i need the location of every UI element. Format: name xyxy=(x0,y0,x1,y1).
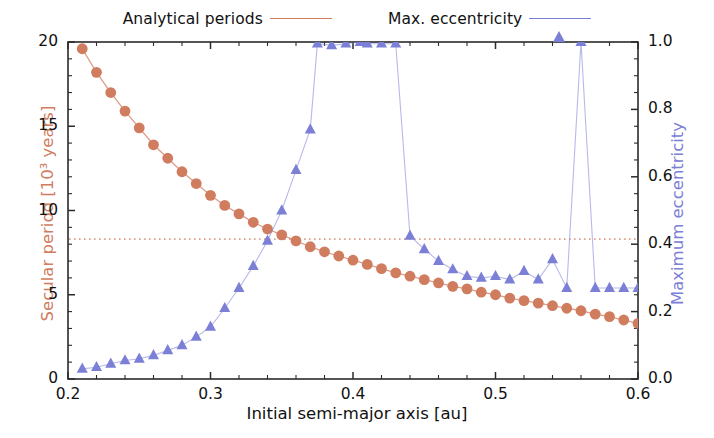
data-point-circle xyxy=(390,267,401,278)
data-point-circle xyxy=(276,230,287,241)
plot-canvas xyxy=(0,0,714,438)
data-point-triangle xyxy=(291,164,302,174)
data-point-circle xyxy=(105,87,116,98)
series-line xyxy=(82,42,638,369)
data-point-triangle xyxy=(191,331,202,341)
data-point-circle xyxy=(547,300,558,311)
data-point-triangle xyxy=(177,339,188,349)
data-point-circle xyxy=(191,178,202,189)
data-point-triangle xyxy=(234,282,245,292)
data-point-circle xyxy=(248,217,259,228)
data-point-circle xyxy=(576,305,587,316)
y-right-tick-label: 0.0 xyxy=(648,369,704,387)
data-point-circle xyxy=(134,123,145,134)
data-point-circle xyxy=(561,303,572,314)
data-point-circle xyxy=(533,298,544,309)
data-point-triangle xyxy=(433,255,444,265)
x-tick-label: 0.2 xyxy=(28,385,108,403)
y-right-tick-label: 0.2 xyxy=(648,302,704,320)
y-right-tick-label: 0.4 xyxy=(648,234,704,252)
data-point-triangle xyxy=(618,282,629,292)
data-point-triangle xyxy=(326,39,337,49)
data-point-circle xyxy=(490,289,501,300)
data-point-triangle xyxy=(547,253,558,263)
data-point-circle xyxy=(177,166,188,177)
data-point-circle xyxy=(348,255,359,266)
data-point-circle xyxy=(590,309,601,320)
x-tick-label: 0.5 xyxy=(456,385,536,403)
data-point-circle xyxy=(291,235,302,246)
data-point-circle xyxy=(376,263,387,274)
data-point-triangle xyxy=(77,363,88,373)
data-point-triangle xyxy=(633,282,644,292)
data-point-circle xyxy=(618,315,629,326)
data-point-triangle xyxy=(561,282,572,292)
data-point-circle xyxy=(77,43,88,54)
data-point-circle xyxy=(148,139,159,150)
data-point-circle xyxy=(362,259,373,270)
data-point-triangle xyxy=(305,123,316,133)
x-tick-label: 0.6 xyxy=(598,385,678,403)
series-line xyxy=(82,49,638,324)
secular-period-eccentricity-figure: Analytical periods Max. eccentricity Ini… xyxy=(0,0,714,438)
data-point-triangle xyxy=(447,263,458,273)
data-point-circle xyxy=(305,241,316,252)
data-point-triangle xyxy=(590,282,601,292)
data-point-circle xyxy=(162,153,173,164)
y-right-tick-label: 0.8 xyxy=(648,99,704,117)
data-point-circle xyxy=(120,106,131,117)
data-point-triangle xyxy=(405,229,416,239)
data-point-circle xyxy=(633,318,644,329)
y-left-tick-label: 0 xyxy=(2,369,58,387)
y-left-tick-label: 20 xyxy=(2,32,58,50)
data-point-circle xyxy=(219,200,230,211)
plot-frame xyxy=(68,42,638,379)
data-point-circle xyxy=(476,287,487,298)
y-right-tick-label: 1.0 xyxy=(648,32,704,50)
data-point-circle xyxy=(462,283,473,294)
data-point-circle xyxy=(604,311,615,322)
data-point-circle xyxy=(91,67,102,78)
data-point-circle xyxy=(333,251,344,262)
data-point-triangle xyxy=(276,204,287,214)
x-tick-label: 0.4 xyxy=(313,385,393,403)
data-point-triangle xyxy=(519,265,530,275)
series-max-eccentricity xyxy=(77,36,644,373)
y-left-tick-label: 5 xyxy=(2,285,58,303)
y-left-tick-label: 15 xyxy=(2,116,58,134)
data-point-circle xyxy=(447,281,458,292)
data-point-circle xyxy=(419,274,430,285)
data-point-triangle xyxy=(476,272,487,282)
y-left-tick-label: 10 xyxy=(2,201,58,219)
data-point-circle xyxy=(405,271,416,282)
data-point-triangle xyxy=(490,270,501,280)
data-point-triangle xyxy=(576,36,587,46)
data-point-triangle xyxy=(419,243,430,253)
y-right-tick-label: 0.6 xyxy=(648,167,704,185)
data-point-circle xyxy=(504,293,515,304)
data-point-circle xyxy=(433,278,444,289)
data-point-circle xyxy=(205,190,216,201)
data-point-triangle xyxy=(248,260,259,270)
data-point-triangle xyxy=(120,354,131,364)
data-point-circle xyxy=(234,208,245,219)
data-point-triangle xyxy=(604,282,615,292)
data-point-triangle xyxy=(262,235,273,245)
data-point-circle xyxy=(519,295,530,306)
x-axis-title: Initial semi-major axis [au] xyxy=(0,404,714,423)
x-tick-label: 0.3 xyxy=(171,385,251,403)
data-point-circle xyxy=(319,246,330,257)
series-analytical-periods xyxy=(77,43,644,328)
